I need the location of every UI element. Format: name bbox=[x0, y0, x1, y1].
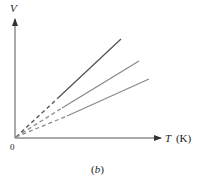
x-axis-variable: T bbox=[165, 132, 172, 144]
series-line-3 bbox=[16, 79, 149, 137]
origin-label: 0 bbox=[10, 142, 15, 152]
y-axis-label: V bbox=[10, 2, 18, 14]
series-line-1 bbox=[16, 39, 121, 137]
volume-temperature-chart: V 0 T (K) (b) bbox=[0, 0, 198, 181]
x-axis-unit: (K) bbox=[176, 132, 192, 145]
figure-caption: (b) bbox=[91, 163, 104, 176]
series-line-2 bbox=[16, 61, 139, 137]
x-axis-label: T (K) bbox=[165, 132, 191, 145]
